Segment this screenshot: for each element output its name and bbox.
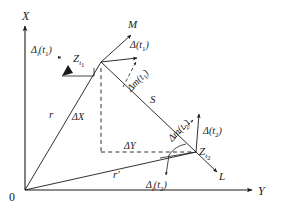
z-t2-label: Zt2 xyxy=(199,145,211,162)
svg-text:Zt2: Zt2 xyxy=(199,145,211,162)
delta-x-var: X xyxy=(77,111,85,122)
svg-text:Δi(t2): Δi(t2) xyxy=(145,179,167,193)
delta-t1-close: ) xyxy=(145,39,150,51)
svg-text:Δ(t1): Δ(t1) xyxy=(129,39,150,53)
delta-i-t2-close: ) xyxy=(162,179,167,191)
axis-group xyxy=(25,26,252,190)
m-direction-label: M xyxy=(127,18,138,30)
delta-t2-label: Δ(t2) xyxy=(202,125,223,139)
svg-text:Zt1: Zt1 xyxy=(73,52,85,69)
delta-i-t1-label: Δi(t1) xyxy=(30,44,52,58)
m-direction-arrow xyxy=(101,35,131,62)
diagram-canvas: X Y 0 M L Zt1 Zt2 r r′ S ΔX xyxy=(0,0,282,215)
baseline-s-label: S xyxy=(150,93,156,105)
position-vector-group xyxy=(25,62,196,190)
delta-i-t1-close: ) xyxy=(47,44,52,56)
delta-m-t1-label: Δm(t1) xyxy=(124,67,153,96)
delta-i-t2-label: Δi(t2) xyxy=(145,179,167,193)
delta-i-t1-arrow-glyph xyxy=(62,65,73,76)
svg-text:Δm(t1): Δm(t1) xyxy=(124,67,153,96)
delta-t2-close: ) xyxy=(218,125,223,137)
svg-text:Δi(t1): Δi(t1) xyxy=(30,44,52,58)
z-t2-sub2: 2 xyxy=(207,154,211,162)
vector-r-line xyxy=(25,62,101,190)
l-direction-label: L xyxy=(218,170,225,182)
node-z-t1-group xyxy=(58,35,137,87)
vector-geometry-figure: X Y 0 M L Zt1 Zt2 r r′ S ΔX xyxy=(0,0,282,215)
delta-y-var: Y xyxy=(130,140,137,151)
vector-r-prime-line xyxy=(25,152,196,190)
z-t1-label: Zt1 xyxy=(73,52,85,69)
origin-label: 0 xyxy=(9,190,15,204)
delta-m-t2-label: Δm(t2) xyxy=(165,117,194,146)
svg-text:Δm(t2): Δm(t2) xyxy=(165,117,194,146)
delta-t1-label: Δ(t1) xyxy=(129,39,150,53)
delta-i-t2-arc xyxy=(169,144,186,155)
delta-y-label: ΔY xyxy=(123,140,137,151)
x-axis-label: X xyxy=(21,9,30,23)
delta-t1-arrow xyxy=(101,58,137,62)
z-t2-baseline-tick xyxy=(160,152,196,158)
vector-r-label: r xyxy=(49,108,54,120)
svg-text:Δ(t2): Δ(t2) xyxy=(202,125,223,139)
vector-r-prime-label: r′ xyxy=(113,168,120,180)
delta-x-label: ΔX xyxy=(71,111,85,122)
y-axis-label: Y xyxy=(258,184,266,198)
z-t1-sub2: 1 xyxy=(81,61,85,69)
